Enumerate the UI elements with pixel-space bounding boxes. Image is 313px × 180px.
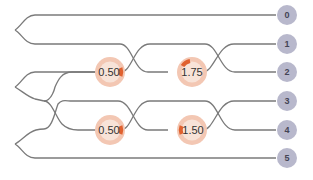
phase-arc-icon (121, 126, 122, 134)
phase-value: 0.50 (98, 66, 119, 78)
phase-value: 0.50 (98, 124, 119, 136)
mode-output-5[interactable]: 5 (277, 148, 297, 168)
circuit-diagram: 0.50 1.75 0.50 1.50 0 1 2 3 4 5 (0, 0, 313, 180)
phase-arc-icon (121, 68, 122, 76)
phase-value: 1.50 (182, 124, 203, 136)
mode-label: 5 (284, 153, 289, 163)
mode-label: 3 (284, 96, 289, 106)
wire-mode-4-b (203, 101, 276, 130)
wire-mode-2-seg (35, 44, 276, 72)
mode-output-2[interactable]: 2 (277, 62, 297, 82)
wire-cross-2-3 (35, 72, 99, 101)
mode-output-4[interactable]: 4 (277, 120, 297, 140)
mode-label: 2 (284, 67, 289, 77)
phase-shifter[interactable]: 1.75 (177, 57, 207, 87)
source-0-1 (15, 15, 35, 44)
source-4-5 (15, 129, 44, 158)
mode-output-3[interactable]: 3 (277, 91, 297, 111)
source-splitters (15, 15, 44, 158)
mode-label: 4 (284, 125, 289, 135)
wire-mode-2-b (203, 44, 276, 72)
wire-mode-4 (44, 101, 276, 130)
source-2-3 (15, 72, 44, 101)
mode-output-1[interactable]: 1 (277, 34, 297, 54)
phase-shifter[interactable]: 0.50 (95, 115, 125, 145)
mode-label: 0 (284, 10, 289, 20)
phase-shifter[interactable]: 0.50 (95, 57, 125, 87)
phase-shifter[interactable]: 1.50 (177, 115, 207, 145)
mode-label: 1 (284, 39, 289, 49)
mode-output-0[interactable]: 0 (277, 5, 297, 25)
phase-value: 1.75 (181, 66, 202, 78)
